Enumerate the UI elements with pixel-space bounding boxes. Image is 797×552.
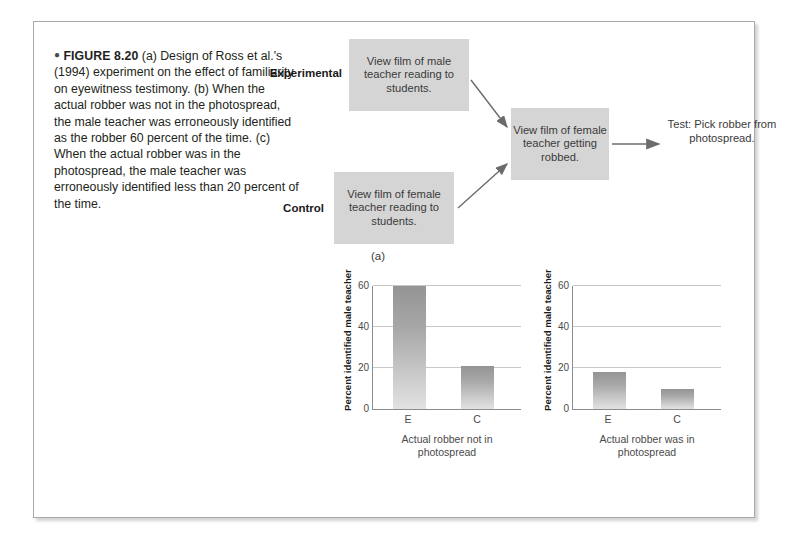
flow-text-test: Test: Pick robber from photospread. [664, 118, 780, 145]
flow-box-experimental-text: View film of male teacher reading to stu… [351, 55, 467, 96]
chart-c-x-axis-caption: Actual robber was in photospread [582, 433, 712, 458]
chart-panel-c: Percent identified male teacher 60 40 20… [544, 280, 734, 480]
chart-b-ytick-20: 20 [358, 362, 369, 373]
chart-c-plot-wrap: 60 40 20 0 E C Actual robber was in phot… [572, 286, 720, 414]
flow-box-control: View film of female teacher reading to s… [334, 172, 454, 244]
chart-b-xtick-c: C [457, 413, 497, 425]
flow-box-robbery-film: View film of female teacher getting robb… [511, 108, 609, 180]
chart-c-gridline-60: 60 [573, 285, 721, 286]
chart-c-bar-e [593, 372, 626, 409]
chart-b-bar-e [393, 286, 426, 409]
chart-panel-b: Percent identified male teacher 60 40 20… [344, 280, 534, 480]
chart-c-y-axis-title: Percent identified male teacher [542, 281, 555, 411]
chart-b-bar-c [461, 366, 494, 409]
chart-b-plot-area: 60 40 20 0 [372, 286, 521, 410]
panel-letter-a: (a) [371, 250, 385, 262]
chart-b-ytick-40: 40 [358, 321, 369, 332]
group-label-experimental: Experimental [224, 67, 342, 79]
flow-box-robbery-film-text: View film of female teacher getting robb… [513, 124, 607, 165]
chart-b-ytick-60: 60 [358, 280, 369, 291]
flow-box-control-text: View film of female teacher reading to s… [336, 188, 452, 229]
chart-c-ytick-20: 20 [558, 362, 569, 373]
panel-a-flowchart: Experimental Control View film of male t… [34, 22, 756, 272]
figure-frame: ● FIGURE 8.20 (a) Design of Ross et al.'… [33, 21, 755, 518]
chart-b-xtick-e: E [388, 413, 428, 425]
chart-b-y-axis-title: Percent identified male teacher [342, 281, 355, 411]
chart-c-ytick-0: 0 [563, 403, 569, 414]
chart-c-gridline-40: 40 [573, 326, 721, 327]
chart-c-ytick-60: 60 [558, 280, 569, 291]
chart-c-gridline-20: 20 [573, 367, 721, 368]
chart-b-ytick-0: 0 [363, 403, 369, 414]
flow-box-experimental: View film of male teacher reading to stu… [349, 39, 469, 111]
chart-c-ytick-40: 40 [558, 321, 569, 332]
chart-c-xtick-c: C [657, 413, 697, 425]
chart-b-plot-wrap: 60 40 20 0 E C Actual robber not in phot… [372, 286, 520, 414]
chart-c-bar-c [661, 389, 694, 410]
group-label-control: Control [224, 202, 324, 214]
chart-b-x-axis-caption: Actual robber not in photospread [382, 433, 512, 458]
chart-c-xtick-e: E [588, 413, 628, 425]
chart-c-plot-area: 60 40 20 0 [572, 286, 721, 410]
